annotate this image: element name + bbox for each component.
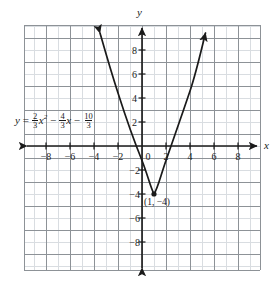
- fraction-numerator: 10: [83, 112, 94, 121]
- fraction-ten-thirds: 10 3: [83, 112, 94, 130]
- fraction-numerator: 4: [59, 112, 65, 121]
- graph-figure: −8 −6 −4 −2 0 2 4 6 8 8 6 4 2 −2 −4 −6 −…: [0, 0, 279, 283]
- y-tick-label: 6: [132, 69, 137, 80]
- vertex-point: [151, 191, 156, 196]
- y-tick-label: 2: [132, 117, 137, 128]
- equation-annotation: y = 2 3 x2 − 4 3 x − 10 3: [15, 112, 94, 130]
- y-tick-label: 8: [132, 45, 137, 56]
- x-tick-label: −4: [89, 151, 100, 162]
- fraction-four-thirds: 4 3: [59, 112, 65, 130]
- equation-equals: =: [23, 114, 29, 126]
- fraction-denominator: 3: [85, 120, 91, 130]
- fraction-denominator: 3: [59, 120, 65, 130]
- fraction-denominator: 3: [32, 120, 38, 130]
- x-tick-label-origin: 0: [146, 151, 151, 162]
- equation-operator-2: −: [74, 114, 80, 126]
- y-tick-label: 4: [132, 93, 137, 104]
- y-tick-label: −4: [129, 189, 140, 200]
- x-axis-label: x: [264, 139, 269, 151]
- x-tick-label: 8: [236, 151, 241, 162]
- x-tick-label: 4: [188, 151, 193, 162]
- y-tick-label: −6: [129, 213, 140, 224]
- coordinate-plane: −8 −6 −4 −2 0 2 4 6 8 8 6 4 2 −2 −4 −6 −…: [0, 0, 279, 283]
- x-tick-label: −6: [65, 151, 76, 162]
- equation-term2-var: x: [66, 114, 71, 126]
- fraction-two-thirds: 2 3: [32, 112, 38, 130]
- equation-term1-exponent: 2: [44, 113, 48, 121]
- x-tick-label: −2: [113, 151, 124, 162]
- equation-operator-1: −: [50, 114, 56, 126]
- x-tick-label: −8: [41, 151, 52, 162]
- x-tick-label: 6: [212, 151, 217, 162]
- vertex-coordinate-label: (1, −4): [144, 197, 170, 207]
- y-tick-label: −8: [129, 237, 140, 248]
- y-tick-label: −2: [129, 165, 140, 176]
- y-axis-label: y: [137, 6, 142, 18]
- equation-lhs: y: [15, 114, 20, 126]
- fraction-numerator: 2: [32, 112, 38, 121]
